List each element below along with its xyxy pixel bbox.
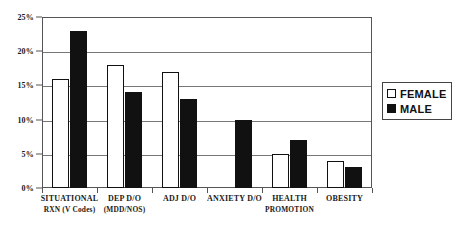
bar-female-2	[162, 72, 179, 188]
bar-female-5	[327, 161, 344, 188]
x-tick-label: HEALTHPROMOTION	[265, 193, 314, 215]
chart-legend: FEMALE MALE	[382, 82, 452, 120]
bars-layer	[42, 17, 372, 188]
x-tick-label: OBESITY	[326, 193, 363, 204]
legend-label-male: MALE	[400, 103, 432, 115]
bar-male-1	[125, 92, 142, 188]
y-tick-label: 15%	[17, 81, 34, 90]
bar-male-5	[345, 167, 362, 188]
bar-female-0	[52, 79, 69, 188]
x-tick-label-line1: HEALTH	[272, 194, 307, 203]
legend-item-female: FEMALE	[387, 86, 446, 101]
x-tick-mark	[207, 188, 208, 193]
bar-male-4	[290, 140, 307, 188]
x-tick-mark	[152, 188, 153, 193]
x-tick-mark	[372, 188, 373, 193]
legend-item-male: MALE	[387, 101, 446, 116]
bar-chart: 0%5%10%15%20%25% SITUATIONALRXN (V Codes…	[0, 0, 475, 231]
legend-swatch-male-icon	[387, 104, 396, 113]
y-tick-label: 20%	[17, 47, 34, 56]
x-tick-label-line1: OBESITY	[326, 194, 363, 203]
x-tick-mark	[42, 188, 43, 193]
x-tick-label-line1: ANXIETY D/O	[207, 194, 262, 203]
x-tick-label-line1: SITUATIONAL	[41, 194, 99, 203]
x-tick-label-line1: DEP D/O	[108, 194, 141, 203]
x-tick-label: ANXIETY D/O	[207, 193, 262, 204]
x-tick-label: ADJ D/O	[163, 193, 196, 204]
x-tick-label-line2: RXN (V Codes)	[41, 204, 99, 215]
legend-label-female: FEMALE	[400, 88, 446, 100]
y-tick-label: 5%	[22, 149, 34, 158]
bar-male-3	[235, 120, 252, 188]
x-tick-label: SITUATIONALRXN (V Codes)	[41, 193, 99, 215]
x-tick-mark	[97, 188, 98, 193]
x-tick-label-line2: PROMOTION	[265, 204, 314, 215]
x-tick-label-line2: (MDD/NOS)	[104, 204, 146, 215]
y-tick-label: 25%	[17, 13, 34, 22]
legend-swatch-female-icon	[387, 89, 396, 98]
x-tick-mark	[317, 188, 318, 193]
x-tick-mark	[262, 188, 263, 193]
bar-male-2	[180, 99, 197, 188]
x-axis: SITUATIONALRXN (V Codes)DEP D/O(MDD/NOS)…	[0, 193, 475, 231]
bar-female-4	[272, 154, 289, 188]
y-axis: 0%5%10%15%20%25%	[0, 0, 42, 188]
x-tick-label: DEP D/O(MDD/NOS)	[104, 193, 146, 215]
x-tick-label-line1: ADJ D/O	[163, 194, 196, 203]
bar-female-1	[107, 65, 124, 188]
y-tick-label: 0%	[22, 184, 34, 193]
bar-male-0	[70, 31, 87, 188]
y-tick-label: 10%	[17, 115, 34, 124]
